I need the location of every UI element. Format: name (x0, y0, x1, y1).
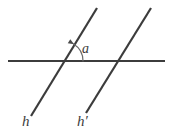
line-label-h-prime: h′ (77, 113, 89, 129)
geometry-canvas: a h h′ (0, 0, 172, 136)
line-label-h: h (22, 113, 30, 129)
angle-label-a: a (82, 41, 89, 56)
geometry-figure: a h h′ (0, 0, 172, 136)
